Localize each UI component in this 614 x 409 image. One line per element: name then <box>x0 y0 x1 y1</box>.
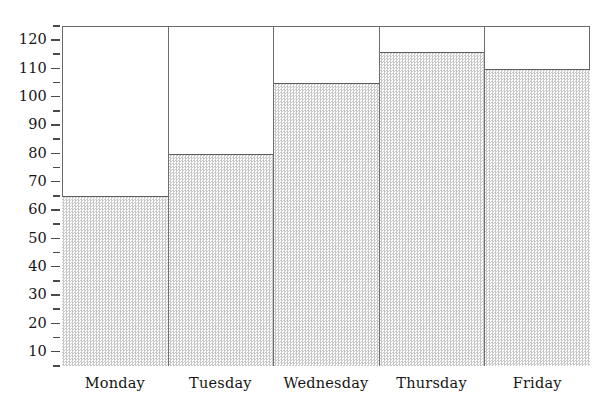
tick-mark <box>53 25 60 27</box>
tick-mark <box>53 308 60 310</box>
tick-mark <box>51 294 60 296</box>
tick-mark <box>51 96 60 98</box>
y-axis-tick-label: 80 <box>28 143 47 164</box>
bar-column <box>168 26 274 366</box>
y-axis: 102030405060708090100110120 <box>0 0 62 409</box>
bar <box>169 154 274 367</box>
bar <box>62 196 168 366</box>
y-axis-tick-label: 110 <box>19 58 47 79</box>
y-axis-tick-label: 10 <box>28 341 47 362</box>
tick-mark <box>53 365 60 367</box>
x-axis-tick-label: Friday <box>484 372 590 394</box>
y-axis-tick-label: 30 <box>28 284 47 305</box>
tick-mark <box>51 39 60 41</box>
tick-mark <box>51 153 60 155</box>
bar <box>274 83 379 366</box>
tick-mark <box>51 68 60 70</box>
y-axis-tick-label: 40 <box>28 256 47 277</box>
x-axis-tick-label: Tuesday <box>168 372 274 394</box>
y-axis-tick-label: 100 <box>19 86 47 107</box>
y-axis-tick-label: 120 <box>19 29 47 50</box>
tick-mark <box>53 223 60 225</box>
tick-mark <box>53 252 60 254</box>
y-axis-tick-label: 90 <box>28 114 47 135</box>
tick-mark <box>53 53 60 55</box>
tick-mark <box>53 138 60 140</box>
y-axis-tick-label: 20 <box>28 313 47 334</box>
tick-mark <box>51 351 60 353</box>
bar-chart: 102030405060708090100110120 MondayTuesda… <box>0 0 614 409</box>
bar-column <box>62 26 168 366</box>
tick-mark <box>53 82 60 84</box>
tick-mark <box>53 110 60 112</box>
tick-mark <box>53 337 60 339</box>
bars-layer <box>62 26 590 366</box>
tick-mark <box>51 181 60 183</box>
tick-mark <box>51 323 60 325</box>
tick-mark <box>51 209 60 211</box>
tick-mark <box>53 280 60 282</box>
x-axis-tick-label: Wednesday <box>273 372 379 394</box>
x-axis-tick-label: Monday <box>62 372 168 394</box>
bar <box>380 52 485 367</box>
y-axis-tick-label: 60 <box>28 199 47 220</box>
tick-mark <box>53 195 60 197</box>
tick-mark <box>51 124 60 126</box>
bar-column <box>379 26 485 366</box>
bar-column <box>484 26 590 366</box>
y-axis-tick-label: 50 <box>28 228 47 249</box>
bar-column <box>273 26 379 366</box>
x-axis-labels: MondayTuesdayWednesdayThursdayFriday <box>62 372 590 402</box>
bar <box>485 69 590 367</box>
y-axis-tick-label: 70 <box>28 171 47 192</box>
x-axis-tick-label: Thursday <box>379 372 485 394</box>
tick-mark <box>51 266 60 268</box>
tick-mark <box>51 238 60 240</box>
tick-mark <box>53 167 60 169</box>
